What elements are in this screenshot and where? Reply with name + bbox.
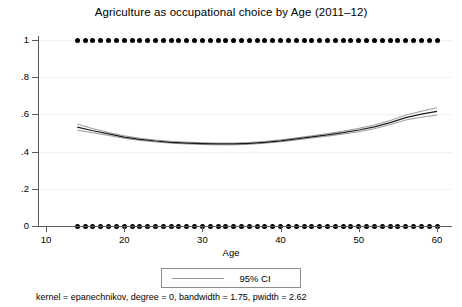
scatter-dot [169, 38, 174, 43]
x-tick [281, 227, 282, 232]
x-tick [202, 227, 203, 232]
y-tick [32, 77, 38, 78]
scatter-dot [161, 38, 166, 43]
scatter-dot [216, 38, 221, 43]
scatter-dot [435, 38, 440, 43]
scatter-dot [83, 38, 88, 43]
x-tick-label: 30 [182, 234, 222, 245]
y-tick [32, 114, 38, 115]
scatter-dot [255, 38, 260, 43]
scatter-dot [239, 38, 244, 43]
scatter-dot [403, 38, 408, 43]
y-tick-label: 0 [0, 220, 29, 231]
scatter-dot [200, 38, 205, 43]
scatter-dot [419, 38, 424, 43]
x-tick [359, 227, 360, 232]
scatter-dot [145, 38, 150, 43]
scatter-dot [380, 38, 385, 43]
x-tick-label: 60 [417, 234, 457, 245]
chart-screenshot: Agriculture as occupational choice by Ag… [0, 0, 462, 307]
y-tick-label: .4 [0, 146, 29, 157]
y-tick-label: .6 [0, 108, 29, 119]
scatter-dot [278, 38, 283, 43]
scatter-dot [137, 38, 142, 43]
gridline [38, 152, 452, 153]
scatter-dot [247, 38, 252, 43]
scatter-dot [302, 38, 307, 43]
x-tick [124, 227, 125, 232]
gridline [38, 77, 452, 78]
scatter-dot [356, 38, 361, 43]
plot-area [38, 34, 452, 226]
scatter-dot [348, 38, 353, 43]
gridline [38, 189, 452, 190]
scatter-dot [270, 38, 275, 43]
scatter-dot [153, 38, 158, 43]
scatter-dot [294, 38, 299, 43]
scatter-dot [411, 38, 416, 43]
y-tick [32, 226, 38, 227]
scatter-dot [309, 38, 314, 43]
scatter-dot [372, 38, 377, 43]
scatter-dot [341, 38, 346, 43]
scatter-dot [262, 38, 267, 43]
gridline [38, 114, 452, 115]
x-tick-label: 10 [26, 234, 66, 245]
scatter-dot [231, 38, 236, 43]
x-tick-label: 20 [104, 234, 144, 245]
scatter-dot [184, 38, 189, 43]
y-tick [32, 152, 38, 153]
chart-footnote: kernel = epanechnikov, degree = 0, bandw… [36, 292, 307, 302]
scatter-dot [286, 38, 291, 43]
scatter-dot [317, 38, 322, 43]
y-tick-label: 1 [0, 34, 29, 45]
scatter-dot [208, 38, 213, 43]
scatter-dot [388, 38, 393, 43]
scatter-dot [325, 38, 330, 43]
scatter-dot [192, 38, 197, 43]
x-tick-label: 50 [339, 234, 379, 245]
scatter-dot [333, 38, 338, 43]
scatter-dot [427, 38, 432, 43]
y-tick [32, 189, 38, 190]
y-axis-line [38, 36, 39, 226]
scatter-dot [130, 38, 135, 43]
legend-swatch-95-ci [172, 278, 224, 279]
y-tick [32, 40, 38, 41]
scatter-dot [364, 38, 369, 43]
x-axis-line [38, 226, 452, 227]
scatter-dot [90, 38, 95, 43]
legend-label-95-ci: 95% CI [224, 273, 300, 284]
y-tick-label: .8 [0, 71, 29, 82]
scatter-dot [223, 38, 228, 43]
scatter-dot [75, 38, 80, 43]
x-tick [437, 227, 438, 232]
x-axis-title: Age [0, 247, 462, 258]
legend: 95% CI [161, 268, 301, 288]
y-tick-label: .2 [0, 183, 29, 194]
scatter-dot [106, 38, 111, 43]
scatter-dot [114, 38, 119, 43]
scatter-dot [176, 38, 181, 43]
scatter-dot [395, 38, 400, 43]
scatter-dot [122, 38, 127, 43]
x-tick-label: 40 [261, 234, 301, 245]
scatter-dot [98, 38, 103, 43]
x-tick [46, 227, 47, 232]
chart-title: Agriculture as occupational choice by Ag… [0, 6, 462, 18]
